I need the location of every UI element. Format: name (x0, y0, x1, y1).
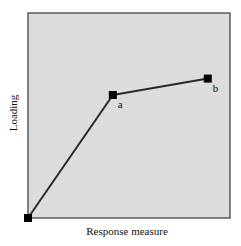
data-point-label: a (118, 98, 123, 110)
data-point-marker (109, 91, 117, 99)
data-point-marker (24, 214, 32, 222)
chart: ab Response measure Loading (0, 0, 241, 246)
data-point-marker (204, 75, 212, 83)
plot-area (28, 13, 230, 218)
y-axis-label: Loading (7, 94, 19, 131)
x-axis-label: Response measure (86, 225, 168, 237)
data-point-label: b (213, 82, 219, 94)
